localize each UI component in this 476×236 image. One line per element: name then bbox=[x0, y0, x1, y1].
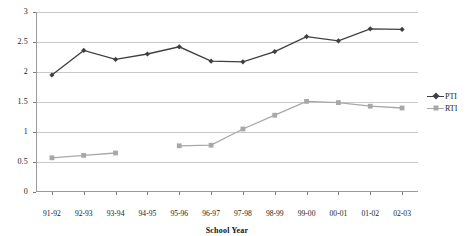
y-tick-mark bbox=[33, 12, 36, 13]
data-point-pti[interactable] bbox=[368, 26, 373, 31]
data-point-pti[interactable] bbox=[177, 44, 182, 49]
y-tick-mark bbox=[33, 192, 36, 193]
x-tick-label: 95-96 bbox=[170, 210, 188, 218]
x-tick-mark bbox=[179, 192, 180, 195]
data-point-rti[interactable] bbox=[400, 106, 405, 111]
plot-area: 00.511.522.53 91-9292-9393-9494-9595-969… bbox=[36, 12, 418, 192]
legend-label-rti: RTI bbox=[445, 104, 457, 113]
x-tick-mark bbox=[275, 192, 276, 195]
x-tick-mark bbox=[147, 192, 148, 195]
line-chart: 00.511.522.53 91-9292-9393-9494-9595-969… bbox=[0, 0, 476, 236]
data-point-rti[interactable] bbox=[209, 143, 214, 148]
y-tick-label: 3 bbox=[0, 8, 28, 16]
y-tick-mark bbox=[33, 162, 36, 163]
data-point-rti[interactable] bbox=[241, 127, 246, 132]
data-point-pti[interactable] bbox=[336, 38, 341, 43]
data-point-pti[interactable] bbox=[272, 49, 277, 54]
data-point-rti[interactable] bbox=[50, 155, 55, 160]
y-tick-mark bbox=[33, 72, 36, 73]
data-point-rti[interactable] bbox=[304, 99, 309, 104]
x-tick-mark bbox=[243, 192, 244, 195]
x-tick-mark bbox=[307, 192, 308, 195]
x-tick-label: 02-03 bbox=[393, 210, 411, 218]
x-tick-mark bbox=[338, 192, 339, 195]
y-tick-label: 2.5 bbox=[0, 38, 28, 46]
series-line-pti bbox=[52, 29, 402, 75]
x-tick-label: 92-93 bbox=[75, 210, 93, 218]
y-tick-label: 0 bbox=[0, 188, 28, 196]
data-point-rti[interactable] bbox=[272, 113, 277, 118]
y-tick-mark bbox=[33, 132, 36, 133]
data-point-rti[interactable] bbox=[113, 151, 118, 156]
x-tick-label: 93-94 bbox=[107, 210, 125, 218]
x-tick-mark bbox=[211, 192, 212, 195]
data-point-pti[interactable] bbox=[145, 51, 150, 56]
y-tick-label: 1 bbox=[0, 128, 28, 136]
x-tick-label: 00-01 bbox=[330, 210, 348, 218]
y-tick-mark bbox=[33, 42, 36, 43]
legend-label-pti: PTI bbox=[445, 92, 457, 101]
x-axis-title: School Year bbox=[36, 226, 418, 235]
data-point-rti[interactable] bbox=[368, 104, 373, 109]
data-point-rti[interactable] bbox=[177, 143, 182, 148]
data-point-pti[interactable] bbox=[304, 34, 309, 39]
data-point-pti[interactable] bbox=[240, 59, 245, 64]
legend-item-rti[interactable]: RTI bbox=[427, 102, 476, 114]
x-tick-label: 96-97 bbox=[202, 210, 220, 218]
data-point-rti[interactable] bbox=[336, 100, 341, 105]
chart-legend: PTI RTI bbox=[427, 90, 476, 114]
data-series-layer bbox=[36, 12, 418, 192]
x-tick-mark bbox=[116, 192, 117, 195]
x-tick-label: 01-02 bbox=[361, 210, 379, 218]
x-tick-mark bbox=[52, 192, 53, 195]
data-point-pti[interactable] bbox=[113, 57, 118, 62]
x-tick-label: 94-95 bbox=[139, 210, 157, 218]
legend-marker-square-icon bbox=[427, 104, 444, 113]
x-tick-mark bbox=[84, 192, 85, 195]
data-point-pti[interactable] bbox=[399, 27, 404, 32]
x-tick-mark bbox=[370, 192, 371, 195]
x-tick-label: 98-99 bbox=[266, 210, 284, 218]
y-tick-label: 0.5 bbox=[0, 158, 28, 166]
x-tick-label: 91-92 bbox=[43, 210, 61, 218]
y-tick-mark bbox=[33, 102, 36, 103]
legend-marker-diamond-icon bbox=[427, 92, 444, 101]
y-tick-label: 1.5 bbox=[0, 98, 28, 106]
x-tick-label: 97-98 bbox=[234, 210, 252, 218]
y-tick-label: 2 bbox=[0, 68, 28, 76]
x-tick-label: 99-00 bbox=[298, 210, 316, 218]
legend-item-pti[interactable]: PTI bbox=[427, 90, 476, 102]
data-point-pti[interactable] bbox=[208, 59, 213, 64]
x-tick-mark bbox=[402, 192, 403, 195]
data-point-rti[interactable] bbox=[81, 153, 86, 158]
